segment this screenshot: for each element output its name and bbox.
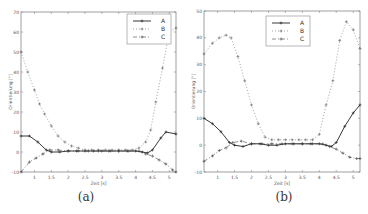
x-tick-label: 2 [67,175,70,180]
x-tick-label: 5 [352,175,355,180]
line-chart-b: 11.522.533.544.55-1001020304050Zeit [s]O… [184,0,368,190]
x-tick-label: 1.5 [48,175,55,180]
data-point-marker [58,151,61,154]
data-point-marker [137,147,140,150]
y-tick-label: 40 [13,70,19,75]
data-point-marker [233,144,236,147]
data-point-marker [67,150,70,153]
y-tick-label: 10 [13,130,19,135]
x-tick-label: 5 [168,175,171,180]
data-point-marker [164,163,167,166]
x-tick-label: 3 [284,175,287,180]
caption-a: (a) [66,190,106,204]
y-tick-label: 50 [196,9,202,14]
data-point-marker [311,142,314,145]
x-tick-label: 1 [33,175,36,180]
y-tick-label: 0 [16,150,19,155]
data-point-marker [352,28,355,31]
data-point-marker [284,138,287,141]
data-point-marker [175,171,178,174]
y-tick-label: 70 [13,10,19,15]
y-tick-label: 20 [196,89,202,94]
x-tick-label: 4 [318,175,321,180]
data-point-marker [50,151,53,154]
y-tick-label: 30 [13,90,19,95]
data-point-marker [331,79,334,82]
data-point-marker [175,133,178,136]
y-tick-label: -10 [12,170,19,175]
data-point-marker [38,103,41,106]
data-point-marker [250,103,253,106]
line-chart-a: 11.522.533.544.55-10010203040506070Zeit … [0,0,184,190]
data-point-marker [236,55,239,58]
y-tick-label: 40 [196,35,202,40]
data-point-marker [203,52,206,55]
data-point-marker [359,157,362,160]
data-point-marker [158,159,161,162]
chart-panel-b: 11.522.533.544.55-1001020304050Zeit [s]O… [184,0,368,214]
data-point-marker [355,157,358,160]
x-axis-label: Zeit [s] [274,181,290,186]
y-tick-label: 60 [13,30,19,35]
data-point-marker [70,145,73,148]
data-point-marker [26,71,29,74]
data-point-marker [257,122,260,125]
data-point-marker [240,140,243,143]
data-point-marker [218,149,221,152]
data-point-marker [291,138,294,141]
x-tick-label: 3.5 [299,175,306,180]
data-point-marker [41,153,44,156]
series-C [203,140,362,163]
legend: ABC [266,16,310,46]
chart-panel-a: 11.522.533.544.55-10010203040506070Zeit … [0,0,184,214]
data-point-marker [359,47,362,50]
data-point-marker [297,138,300,141]
data-point-marker [267,144,270,147]
x-axis-label: Zeit [s] [90,181,106,186]
data-point-marker [33,89,36,92]
legend-label-C: C [161,33,165,40]
data-point-marker [20,51,23,54]
data-point-marker [277,138,280,141]
data-point-marker [203,160,206,163]
data-point-marker [301,142,304,145]
data-point-marker [87,150,90,153]
caption-b: (b) [264,190,304,204]
x-tick-label: 1.5 [231,175,238,180]
x-tick-label: 4.5 [149,175,156,180]
data-point-marker [225,34,228,37]
data-point-marker [57,149,60,152]
data-point-marker [325,103,328,106]
data-point-marker [149,129,152,132]
y-tick-label: 20 [13,110,19,115]
data-point-marker [250,142,253,145]
y-axis-label: Orientierung [°] [191,73,196,109]
series-A [203,103,362,148]
data-point-marker [304,138,307,141]
data-point-marker [77,147,80,150]
data-point-marker [345,20,348,23]
x-tick-label: 2 [250,175,253,180]
legend-label-B: B [161,25,165,32]
x-tick-label: 1 [216,175,219,180]
data-point-marker [264,136,267,139]
data-point-marker [338,39,341,42]
series-C [20,149,178,174]
data-point-marker [20,135,23,138]
data-point-marker [291,142,294,145]
y-tick-label: 0 [199,143,202,148]
data-point-marker [335,148,338,151]
data-point-marker [35,157,38,160]
y-tick-label: 50 [13,50,19,55]
series-B [20,27,178,152]
data-point-marker [242,145,245,148]
y-tick-label: 30 [196,62,202,67]
data-point-marker [260,142,263,145]
legend-label-C: C [300,35,304,42]
data-point-marker [151,155,154,158]
data-point-marker [77,150,80,153]
x-tick-label: 3.5 [115,175,122,180]
data-point-marker [175,27,178,30]
x-tick-label: 4 [134,175,137,180]
data-point-marker [144,141,147,144]
